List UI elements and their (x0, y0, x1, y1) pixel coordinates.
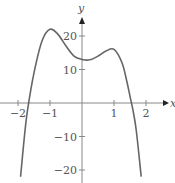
y-tick-label: −10 (54, 131, 77, 144)
x-axis-label: x (170, 97, 175, 110)
y-tick-label: −20 (54, 164, 77, 177)
chart-svg: x y −2−1122010−10−20 (0, 0, 175, 183)
x-tick-label: −2 (10, 107, 26, 120)
x-tick-label: −1 (42, 107, 58, 120)
chart: x y −2−1122010−10−20 (0, 0, 175, 183)
y-tick-label: 20 (63, 30, 77, 43)
y-axis-arrow-icon (79, 17, 85, 24)
x-tick-label: 2 (143, 107, 150, 120)
x-axis-arrow-icon (163, 100, 169, 106)
y-axis-label: y (77, 2, 85, 15)
x-tick-label: 1 (111, 107, 118, 120)
y-tick-label: 10 (63, 64, 77, 77)
